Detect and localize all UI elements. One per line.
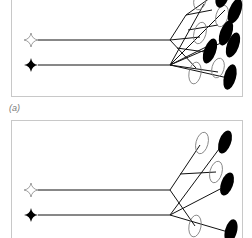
panel-b-filled-units	[215, 129, 240, 238]
panel-b-connections	[38, 145, 228, 232]
panel-a-connections	[38, 0, 228, 78]
filled-star-icon	[24, 58, 38, 72]
hollow-star-icon	[24, 183, 38, 197]
filled-star-icon	[24, 208, 38, 222]
diagram-canvas	[0, 0, 252, 238]
panel-a-filled-units	[200, 0, 245, 91]
hollow-star-icon	[24, 33, 38, 47]
